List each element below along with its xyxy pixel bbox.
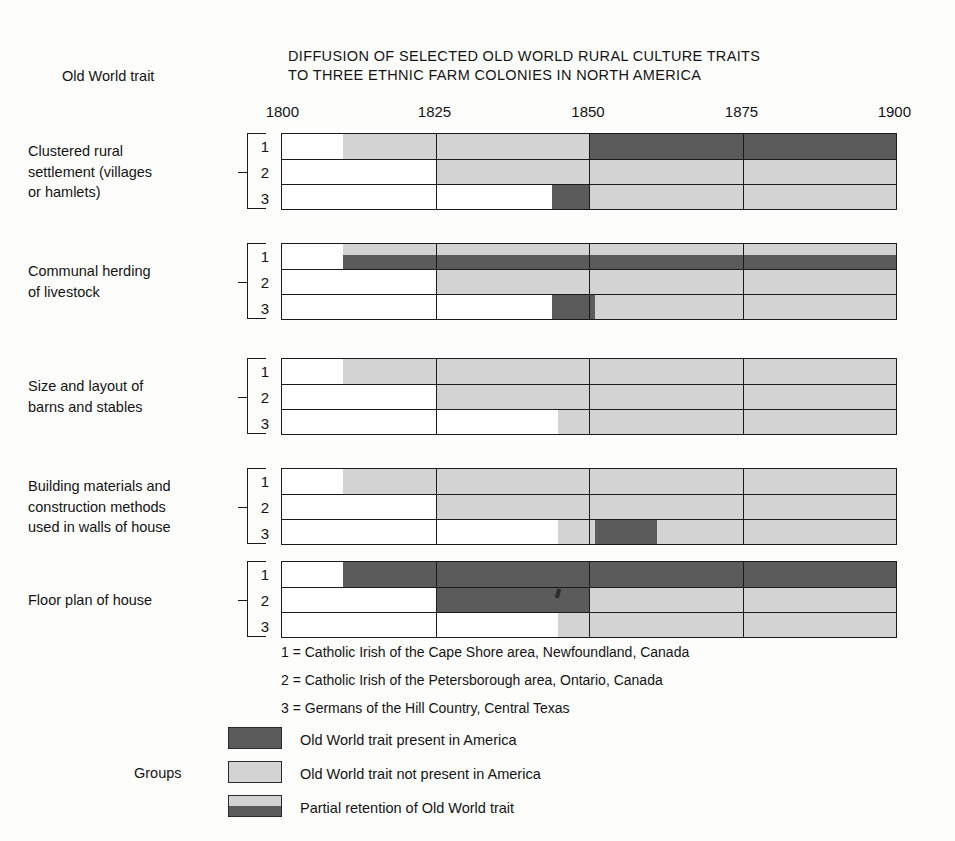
trait-label-line: Size and layout of (28, 376, 224, 397)
gridline-1825 (436, 295, 437, 319)
trait-bar-row-2[interactable] (282, 384, 896, 409)
bar-segment-absent (436, 160, 897, 184)
group-definition-2: 2 = Catholic Irish of the Petersborough … (281, 673, 663, 687)
gridline-1875 (743, 562, 744, 587)
bar-segment-present (343, 562, 896, 587)
gridline-1825 (436, 520, 437, 544)
bar-segment-absent (436, 495, 897, 519)
gridline-1825 (436, 410, 437, 434)
group-number-1: 1 (258, 249, 272, 264)
group-number-2: 2 (258, 593, 272, 608)
trait-bar-group (281, 358, 897, 435)
trait-label-line: settlement (villages (28, 162, 224, 183)
trait-bar-row-3[interactable] (282, 409, 896, 434)
gridline-1875 (743, 185, 744, 209)
gridline-1875 (743, 520, 744, 544)
x-tick-label: 1850 (571, 103, 604, 120)
trait-label: Building materials andconstruction metho… (28, 476, 224, 538)
group-number-3: 3 (258, 416, 272, 431)
gridline-1850 (589, 359, 590, 384)
bar-segment-absent (343, 359, 896, 384)
trait-bar-group (281, 243, 897, 320)
gridline-1825 (436, 469, 437, 494)
gridline-1850 (589, 185, 590, 209)
group-number-2: 2 (258, 275, 272, 290)
trait-bar-row-1[interactable] (282, 469, 896, 494)
group-number-2: 2 (258, 500, 272, 515)
group-bracket-stem (238, 397, 247, 398)
bar-segment-absent (657, 520, 896, 544)
gridline-1875 (743, 495, 744, 519)
gridline-1850 (589, 134, 590, 159)
bar-segment-partial (343, 244, 896, 269)
gridline-1850 (589, 160, 590, 184)
gridline-1850 (589, 270, 590, 294)
group-bracket-stem (238, 600, 247, 601)
bar-segment-absent (436, 385, 897, 409)
trait-bar-row-1[interactable] (282, 134, 896, 159)
legend-swatch-absent (228, 761, 282, 783)
gridline-1825 (436, 134, 437, 159)
trait-bar-row-3[interactable] (282, 294, 896, 319)
chart-canvas: DIFFUSION OF SELECTED OLD WORLD RURAL CU… (0, 0, 955, 841)
x-axis-ticks: 18001825185018751900 (0, 103, 955, 123)
group-number-3: 3 (258, 191, 272, 206)
trait-bar-row-1[interactable] (282, 244, 896, 269)
legend-swatch-partial (228, 795, 282, 817)
group-number-3: 3 (258, 526, 272, 541)
group-number-2: 2 (258, 390, 272, 405)
trait-bar-group (281, 133, 897, 210)
gridline-1850 (589, 410, 590, 434)
gridline-1875 (743, 160, 744, 184)
trait-bar-row-3[interactable] (282, 612, 896, 637)
trait-label-line: barns and stables (28, 397, 224, 418)
groups-caption: Groups (134, 765, 182, 781)
bar-segment-present (552, 185, 589, 209)
chart-title-line-1: DIFFUSION OF SELECTED OLD WORLD RURAL CU… (288, 47, 928, 66)
group-number-1: 1 (258, 567, 272, 582)
trait-bar-row-1[interactable] (282, 359, 896, 384)
gridline-1825 (436, 613, 437, 637)
gridline-1875 (743, 588, 744, 612)
gridline-1850 (589, 588, 590, 612)
group-definition-1: 1 = Catholic Irish of the Cape Shore are… (281, 645, 689, 659)
gridline-1875 (743, 244, 744, 269)
gridline-1850 (589, 495, 590, 519)
group-bracket-stem (238, 507, 247, 508)
trait-label-line: Communal herding (28, 261, 224, 282)
trait-label-line: Floor plan of house (28, 590, 224, 611)
group-bracket-stem (238, 172, 247, 173)
gridline-1825 (436, 244, 437, 269)
trait-bar-row-2[interactable] (282, 587, 896, 612)
gridline-1850 (589, 385, 590, 409)
gridline-1875 (743, 359, 744, 384)
trait-bar-row-3[interactable] (282, 184, 896, 209)
trait-bar-row-2[interactable] (282, 159, 896, 184)
chart-title: DIFFUSION OF SELECTED OLD WORLD RURAL CU… (288, 47, 928, 85)
trait-label-line: or hamlets) (28, 182, 224, 203)
bar-segment-absent (558, 613, 896, 637)
gridline-1825 (436, 385, 437, 409)
trait-bar-group (281, 468, 897, 545)
trait-bar-row-1[interactable] (282, 562, 896, 587)
trait-bar-row-2[interactable] (282, 269, 896, 294)
gridline-1825 (436, 185, 437, 209)
legend-label-present: Old World trait present in America (300, 733, 517, 748)
trait-label-line: of livestock (28, 282, 224, 303)
trait-label-line: construction methods (28, 497, 224, 518)
trait-bar-row-3[interactable] (282, 519, 896, 544)
row-axis-title: Old World trait (62, 68, 242, 84)
trait-bar-row-2[interactable] (282, 494, 896, 519)
group-number-2: 2 (258, 165, 272, 180)
x-tick-label: 1875 (725, 103, 758, 120)
group-number-1: 1 (258, 474, 272, 489)
gridline-1825 (436, 562, 437, 587)
bar-segment-absent (343, 469, 896, 494)
group-number-3: 3 (258, 301, 272, 316)
gridline-1875 (743, 469, 744, 494)
gridline-1875 (743, 134, 744, 159)
group-bracket-stem (238, 282, 247, 283)
trait-label: Clustered ruralsettlement (villagesor ha… (28, 141, 224, 203)
x-tick-label: 1900 (878, 103, 911, 120)
group-number-1: 1 (258, 364, 272, 379)
